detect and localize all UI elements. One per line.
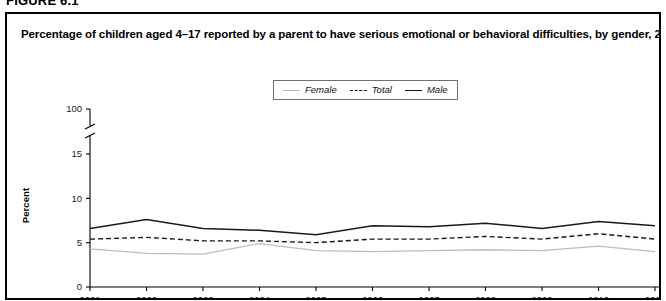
plot-area: 051015100 200120022003200420052006200720… bbox=[7, 14, 661, 300]
svg-text:5: 5 bbox=[77, 237, 82, 248]
svg-text:15: 15 bbox=[71, 148, 82, 159]
svg-text:2007: 2007 bbox=[418, 294, 439, 300]
svg-text:2009: 2009 bbox=[531, 294, 552, 300]
svg-text:2004: 2004 bbox=[249, 294, 270, 300]
svg-text:2008: 2008 bbox=[475, 294, 496, 300]
figure-number: FIGURE 6.1 bbox=[6, 0, 79, 8]
svg-text:0: 0 bbox=[77, 281, 82, 292]
svg-text:2010: 2010 bbox=[588, 294, 609, 300]
y-axis: 051015100 bbox=[66, 103, 95, 292]
svg-text:2006: 2006 bbox=[362, 294, 383, 300]
svg-text:100: 100 bbox=[66, 103, 82, 114]
svg-text:2011: 2011 bbox=[645, 294, 661, 300]
line-chart-svg: 051015100 200120022003200420052006200720… bbox=[7, 14, 661, 300]
svg-text:2003: 2003 bbox=[192, 294, 213, 300]
svg-text:2005: 2005 bbox=[305, 294, 326, 300]
svg-text:2002: 2002 bbox=[136, 294, 157, 300]
svg-text:2001: 2001 bbox=[79, 294, 100, 300]
svg-text:10: 10 bbox=[71, 193, 82, 204]
series-line-total bbox=[90, 234, 655, 243]
series-line-male bbox=[90, 220, 655, 235]
series-line-female bbox=[90, 244, 655, 255]
figure-panel: Percentage of children aged 4–17 reporte… bbox=[5, 12, 661, 300]
data-series-group bbox=[90, 220, 655, 255]
x-axis: 2001200220032004200520062007200820092010… bbox=[79, 287, 661, 300]
